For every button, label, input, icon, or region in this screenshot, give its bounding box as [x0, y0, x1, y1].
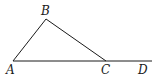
label-a: A [5, 63, 15, 77]
segment-bc [46, 19, 106, 61]
label-b: B [40, 4, 50, 18]
label-d: D [137, 63, 148, 77]
label-c: C [101, 63, 110, 77]
segment-ab [13, 19, 46, 61]
triangle-diagram: A B C D [0, 0, 162, 78]
